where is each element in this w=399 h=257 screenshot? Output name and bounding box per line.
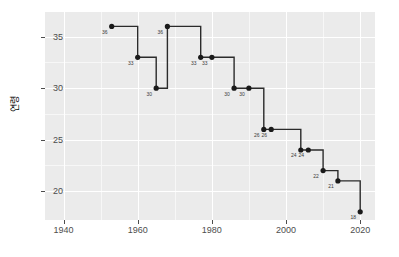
data-point-label: 33: [191, 60, 197, 66]
data-point: [321, 168, 326, 173]
data-point-label: 30: [224, 91, 230, 97]
data-point-label: 24: [298, 152, 304, 158]
y-axis-label: 연령: [8, 96, 21, 112]
data-point-label: 36: [158, 29, 164, 35]
data-point-label: 18: [350, 214, 356, 220]
data-point: [306, 147, 311, 152]
data-point: [154, 86, 159, 91]
data-point: [165, 24, 170, 29]
data-point: [109, 24, 114, 29]
data-point: [269, 127, 274, 132]
data-point: [232, 86, 237, 91]
data-point-label: 22: [313, 173, 319, 179]
data-point: [209, 55, 214, 60]
data-point: [335, 178, 340, 183]
data-point-label: 30: [239, 91, 245, 97]
step-line: [112, 26, 361, 211]
data-point-group: [109, 24, 363, 215]
data-point-label: 33: [128, 60, 134, 66]
data-point-label: 21: [328, 183, 334, 189]
data-point-label: 24: [291, 152, 297, 158]
data-point-label: 33: [202, 60, 208, 66]
data-point: [135, 55, 140, 60]
series-layer: [0, 0, 399, 257]
data-point: [246, 86, 251, 91]
data-point-label: 26: [261, 132, 267, 138]
data-point: [358, 209, 363, 214]
data-point-label: 26: [254, 132, 260, 138]
data-point-label: 36: [102, 29, 108, 35]
chart-container: 2025303519401960198020002020 36333036333…: [0, 0, 399, 257]
data-point-label: 30: [146, 91, 152, 97]
